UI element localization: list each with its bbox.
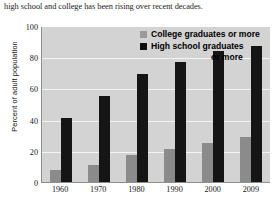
legend-item-highschool: High school graduates — [140, 41, 260, 53]
x-tick-1980: 1980 — [119, 185, 153, 194]
x-tick-2000: 2000 — [196, 185, 230, 194]
bar-college-1990 — [164, 149, 175, 182]
bar-highschool-2009 — [251, 46, 262, 182]
y-tick-60: 60 — [12, 85, 38, 94]
bar-college-2000 — [202, 143, 213, 182]
legend-swatch-college-icon — [140, 31, 147, 38]
bar-highschool-1970 — [99, 96, 110, 182]
y-tick-100: 100 — [12, 23, 38, 32]
figure-caption: high school and college has been rising … — [4, 1, 270, 12]
y-tick-20: 20 — [12, 147, 38, 156]
bar-college-1960 — [50, 170, 61, 182]
x-axis-ticks: 1960 1970 1980 1990 2000 2009 — [41, 185, 270, 194]
x-tick-1960: 1960 — [43, 185, 77, 194]
bar-group-1960 — [50, 27, 72, 182]
legend-label-highschool: High school graduates — [151, 41, 244, 53]
x-tick-2009: 2009 — [234, 185, 268, 194]
bar-chart: Percent of adult population 100 80 60 40… — [0, 22, 274, 197]
legend-swatch-highschool-icon — [140, 43, 147, 50]
plot-area: College graduates or more High school gr… — [41, 27, 270, 183]
bar-group-1970 — [88, 27, 110, 182]
bar-college-1980 — [126, 155, 137, 182]
y-tick-40: 40 — [12, 116, 38, 125]
bar-college-2009 — [240, 137, 251, 182]
y-axis-ticks: 100 80 60 40 20 0 — [8, 22, 38, 197]
bar-college-1970 — [88, 165, 99, 182]
y-tick-80: 80 — [12, 54, 38, 63]
bar-highschool-1980 — [137, 74, 148, 182]
page-footer-cut — [4, 207, 270, 215]
bar-highschool-1990 — [175, 62, 186, 182]
x-tick-1990: 1990 — [158, 185, 192, 194]
legend-label-highschool-line2: or more — [140, 52, 260, 64]
bar-highschool-2000 — [213, 51, 224, 182]
y-tick-0: 0 — [12, 179, 38, 188]
legend-item-college: College graduates or more — [140, 29, 260, 41]
bar-highschool-1960 — [61, 118, 72, 182]
chart-legend: College graduates or more High school gr… — [140, 29, 260, 64]
legend-label-college: College graduates or more — [151, 29, 260, 41]
x-tick-1970: 1970 — [81, 185, 115, 194]
